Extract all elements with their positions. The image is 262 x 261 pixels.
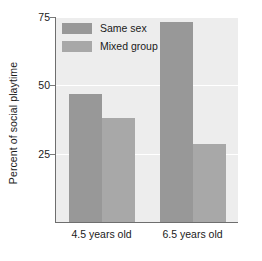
y-axis-title: Percent of social playtime bbox=[4, 8, 22, 238]
bar-chart-figure: Percent of social playtime 755025 Same s… bbox=[0, 0, 262, 261]
legend-item: Same sex bbox=[62, 22, 158, 34]
bar bbox=[193, 144, 226, 222]
chart-legend: Same sexMixed group bbox=[62, 22, 158, 52]
y-tick-label: 75 bbox=[26, 11, 50, 23]
plot-area: Same sexMixed group bbox=[56, 17, 238, 222]
bar bbox=[160, 22, 193, 222]
y-axis-tick-labels: 755025 bbox=[26, 0, 50, 261]
legend-swatch bbox=[62, 41, 92, 52]
gridline bbox=[56, 17, 238, 18]
x-axis-category-labels: 4.5 years old6.5 years old bbox=[56, 228, 238, 248]
y-tick-label: 50 bbox=[26, 79, 50, 91]
legend-item: Mixed group bbox=[62, 40, 158, 52]
legend-swatch bbox=[62, 23, 92, 34]
legend-label: Mixed group bbox=[100, 40, 158, 52]
x-axis-line bbox=[55, 222, 238, 223]
x-category-label: 4.5 years old bbox=[56, 228, 147, 248]
x-category-label: 6.5 years old bbox=[147, 228, 238, 248]
bar bbox=[69, 94, 102, 222]
bar bbox=[102, 118, 135, 222]
y-tick-label: 25 bbox=[26, 148, 50, 160]
gridline bbox=[56, 85, 238, 86]
legend-label: Same sex bbox=[100, 22, 147, 34]
